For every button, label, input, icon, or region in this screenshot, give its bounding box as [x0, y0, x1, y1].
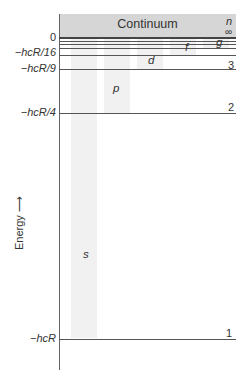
level-n4b	[59, 48, 236, 49]
subshell-label-g: g	[216, 36, 222, 48]
tick-label-hcr4: −hcR/4	[21, 106, 56, 118]
level-infinity	[59, 37, 236, 39]
arrow-up-icon: ⟶	[13, 196, 25, 212]
subshell-label-f: f	[185, 41, 188, 53]
level-n1	[59, 339, 236, 340]
continuum-band: Continuum	[59, 14, 236, 38]
level-n6	[59, 41, 236, 42]
level-n3	[59, 69, 236, 70]
energy-axis	[59, 14, 60, 370]
continuum-label: Continuum	[59, 17, 236, 31]
subshell-label-s: s	[83, 248, 89, 260]
tick-label-hcr: −hcR	[30, 332, 56, 344]
energy-axis-label: Energy ⟶	[13, 196, 26, 250]
p-column-shade	[104, 38, 130, 113]
subshell-label-p: p	[113, 82, 119, 94]
level-n2	[59, 113, 236, 114]
level-n5	[59, 44, 236, 45]
subshell-label-d: d	[148, 54, 154, 66]
s-column-shade	[71, 38, 97, 338]
n-infinity-label: ∞	[225, 26, 232, 37]
n-label-3: 3	[228, 59, 234, 71]
n-label-2: 2	[228, 101, 234, 113]
n-label-1: 1	[226, 327, 232, 339]
tick-label-hcr9: −hcR/9	[21, 62, 56, 74]
energy-label-text: Energy	[13, 215, 25, 250]
tick-label-zero: 0	[50, 31, 56, 43]
tick-label-hcr16: −hcR/16	[15, 46, 56, 58]
